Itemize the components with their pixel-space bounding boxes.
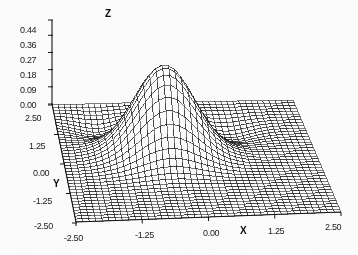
x-tick-label: 1.25 — [268, 226, 284, 236]
y-tick-label: -2.50 — [34, 221, 53, 231]
z-tick-label: 0.36 — [20, 40, 36, 50]
y-tick-label: 1.25 — [29, 141, 45, 151]
surface-plot-figure: Z 0.44 0.36 0.27 0.18 0.09 0.00 Y 2.50 1… — [0, 0, 358, 255]
z-tick-label: 0.27 — [20, 55, 36, 65]
z-tick-label: 0.00 — [20, 100, 36, 110]
x-tick-label: 0.00 — [203, 228, 219, 238]
x-tick-label: -1.25 — [135, 230, 154, 240]
y-axis-label: Y — [53, 178, 60, 189]
y-tick-label: 0.00 — [33, 168, 49, 178]
z-tick-label: 0.18 — [20, 70, 36, 80]
y-tick-label: 2.50 — [25, 113, 41, 123]
z-tick-label: 0.09 — [20, 85, 36, 95]
x-axis-label: X — [240, 225, 247, 236]
z-axis-label: Z — [105, 8, 111, 19]
y-tick-label: -1.25 — [33, 196, 52, 206]
z-tick-label: 0.44 — [20, 25, 36, 35]
x-tick-label: 2.50 — [325, 222, 341, 232]
x-tick-label: -2.50 — [64, 233, 83, 243]
wireframe-surface-canvas — [0, 0, 358, 255]
